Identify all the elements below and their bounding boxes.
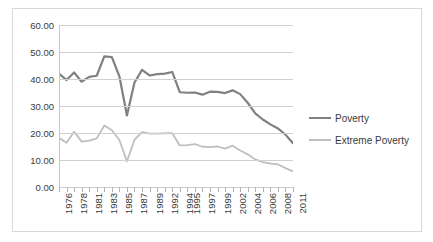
x-tick [89, 187, 90, 192]
x-tick-label: 1978 [78, 193, 89, 214]
x-tick-label: 2008 [282, 193, 293, 214]
gridline-50-00 [59, 52, 293, 53]
legend-label: Poverty [335, 113, 369, 124]
y-tick-label: 0.00 [36, 182, 55, 193]
x-tick-label: 1995 [191, 193, 202, 214]
legend-swatch-icon [309, 117, 331, 119]
x-tick [112, 187, 113, 192]
x-tick [82, 187, 83, 192]
x-tick-label: 1987 [138, 193, 149, 214]
y-tick-label: 40.00 [30, 74, 54, 85]
x-tick-label: 1976 [63, 193, 74, 214]
chart-legend: PovertyExtreme Poverty [309, 107, 419, 151]
x-tick [263, 187, 264, 192]
x-tick [233, 187, 234, 192]
legend-item-extreme-poverty[interactable]: Extreme Poverty [309, 129, 419, 151]
x-tick-label: 2002 [237, 193, 248, 214]
x-tick [104, 187, 105, 192]
x-tick-label: 1999 [222, 193, 233, 214]
legend-label: Extreme Poverty [335, 135, 409, 146]
x-tick-label: 2004 [252, 193, 263, 214]
x-tick [255, 187, 256, 192]
x-tick [157, 187, 158, 192]
x-tick-label: 2006 [267, 193, 278, 214]
y-tick-label: 30.00 [30, 101, 54, 112]
chart-container: 60.0050.0040.0030.0020.0010.000.00 19761… [12, 8, 422, 232]
x-tick [187, 187, 188, 192]
x-tick [127, 187, 128, 192]
gridline-60-00 [59, 25, 293, 26]
x-tick [195, 187, 196, 192]
x-tick [142, 187, 143, 192]
x-tick [248, 187, 249, 192]
x-tick [202, 187, 203, 192]
x-axis-labels: 1976197819811983198519871989199219941995… [59, 193, 293, 233]
x-tick [67, 187, 68, 192]
gridline-10-00 [59, 160, 293, 161]
x-tick [180, 187, 181, 192]
x-tick [97, 187, 98, 192]
legend-item-poverty[interactable]: Poverty [309, 107, 419, 129]
x-axis-ticks [59, 187, 293, 192]
y-tick-label: 60.00 [30, 20, 54, 31]
x-tick [165, 187, 166, 192]
gridline-20-00 [59, 133, 293, 134]
y-tick-label: 50.00 [30, 47, 54, 58]
x-tick-label: 1992 [169, 193, 180, 214]
x-tick [240, 187, 241, 192]
x-tick [293, 187, 294, 192]
x-tick-label: 1983 [108, 193, 119, 214]
x-tick [134, 187, 135, 192]
x-tick-label: 2011 [297, 193, 308, 213]
y-tick-label: 10.00 [30, 155, 54, 166]
x-tick [285, 187, 286, 192]
x-tick-label: 1989 [154, 193, 165, 214]
x-tick [59, 187, 60, 192]
x-tick [119, 187, 120, 192]
plot-area: 60.0050.0040.0030.0020.0010.000.00 [59, 25, 293, 187]
gridline-30-00 [59, 106, 293, 107]
gridline-40-00 [59, 79, 293, 80]
series-line-poverty [59, 56, 293, 143]
x-tick [150, 187, 151, 192]
x-tick [210, 187, 211, 192]
x-tick [218, 187, 219, 192]
x-tick-label: 1997 [206, 193, 217, 214]
legend-swatch-icon [309, 139, 331, 141]
x-tick [74, 187, 75, 192]
x-tick [278, 187, 279, 192]
y-tick-label: 20.00 [30, 128, 54, 139]
x-tick [270, 187, 271, 192]
x-tick [172, 187, 173, 192]
x-tick-label: 1985 [123, 193, 134, 214]
x-tick-label: 1981 [93, 193, 104, 214]
x-tick [225, 187, 226, 192]
